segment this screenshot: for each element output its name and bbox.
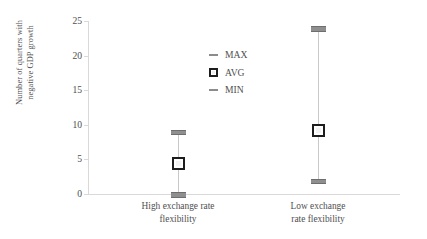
min-cap-high bbox=[171, 192, 186, 197]
legend-item-min[interactable]: MIN bbox=[205, 81, 247, 99]
y-axis-line bbox=[88, 21, 89, 194]
legend-item-avg[interactable]: AVG bbox=[205, 64, 247, 82]
min-cap-low bbox=[311, 179, 326, 184]
x-label-low-line-1: Low exchange bbox=[238, 200, 398, 213]
y-axis-title-line-2: negative GDP growth bbox=[26, 0, 37, 150]
chart-legend: MAX AVG MIN bbox=[205, 46, 247, 99]
legend-label-min: MIN bbox=[225, 81, 244, 99]
avg-marker-low bbox=[312, 124, 325, 137]
max-cap-high bbox=[171, 130, 186, 135]
legend-dash-icon-min bbox=[205, 89, 222, 91]
legend-label-max: MAX bbox=[225, 46, 247, 64]
y-tick-label-25: 25 bbox=[58, 15, 82, 26]
y-tick-label-5: 5 bbox=[58, 153, 82, 164]
y-tick-label-0: 0 bbox=[58, 188, 82, 199]
y-axis-title-line-1: Number of quarters with bbox=[15, 0, 26, 150]
y-axis-tick-0 bbox=[84, 194, 88, 195]
y-axis-tick-20 bbox=[84, 56, 88, 57]
x-label-low-line-2: rate flexibility bbox=[238, 213, 398, 226]
y-axis-tick-5 bbox=[84, 159, 88, 160]
y-axis-tick-10 bbox=[84, 125, 88, 126]
x-axis-label-low-exchange-rate-flexibility: Low exchange rate flexibility bbox=[238, 200, 398, 225]
legend-dash-icon-max bbox=[205, 54, 222, 56]
y-axis-title: Number of quarters with negative GDP gro… bbox=[15, 0, 36, 150]
y-tick-label-15: 15 bbox=[58, 84, 82, 95]
legend-square-icon-avg bbox=[205, 68, 222, 78]
y-tick-label-20: 20 bbox=[58, 50, 82, 61]
y-axis-tick-25 bbox=[84, 21, 88, 22]
avg-marker-high bbox=[172, 157, 185, 170]
whisker-line-low bbox=[318, 28, 319, 180]
legend-label-avg: AVG bbox=[225, 64, 245, 82]
y-tick-label-10: 10 bbox=[58, 119, 82, 130]
x-axis-label-high-exchange-rate-flexibility: High exchange rate flexibility bbox=[98, 200, 258, 225]
x-axis-line bbox=[88, 194, 400, 195]
chart-container: Number of quarters with negative GDP gro… bbox=[0, 0, 427, 239]
max-cap-low bbox=[311, 26, 326, 31]
y-axis-tick-15 bbox=[84, 90, 88, 91]
legend-item-max[interactable]: MAX bbox=[205, 46, 247, 64]
x-label-high-line-1: High exchange rate bbox=[98, 200, 258, 213]
x-label-high-line-2: flexibility bbox=[98, 213, 258, 226]
